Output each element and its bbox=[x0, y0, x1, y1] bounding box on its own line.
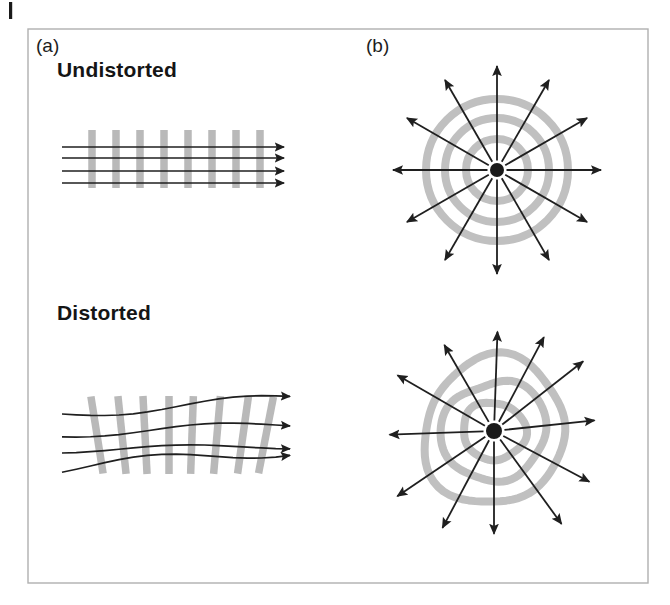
grating-bar bbox=[208, 130, 216, 188]
grating-bar bbox=[232, 130, 240, 188]
grating-bar bbox=[112, 130, 120, 188]
corner-tick-mark bbox=[9, 2, 12, 19]
label-undistorted: Undistorted bbox=[57, 58, 177, 81]
label-distorted: Distorted bbox=[57, 301, 151, 324]
figure-canvas: (a) (b) Undistorted Distorted bbox=[0, 0, 670, 605]
center-dot bbox=[490, 163, 504, 177]
figure-root: (a) (b) Undistorted Distorted bbox=[0, 0, 670, 605]
center-dot bbox=[486, 423, 502, 439]
grating-bar bbox=[256, 130, 264, 188]
panel-b-letter: (b) bbox=[366, 35, 389, 56]
panel-a-letter: (a) bbox=[36, 35, 59, 56]
grating-bar bbox=[88, 130, 96, 188]
grating-bar bbox=[136, 130, 144, 188]
grating-bar bbox=[184, 130, 192, 188]
grating-bar bbox=[160, 130, 168, 188]
